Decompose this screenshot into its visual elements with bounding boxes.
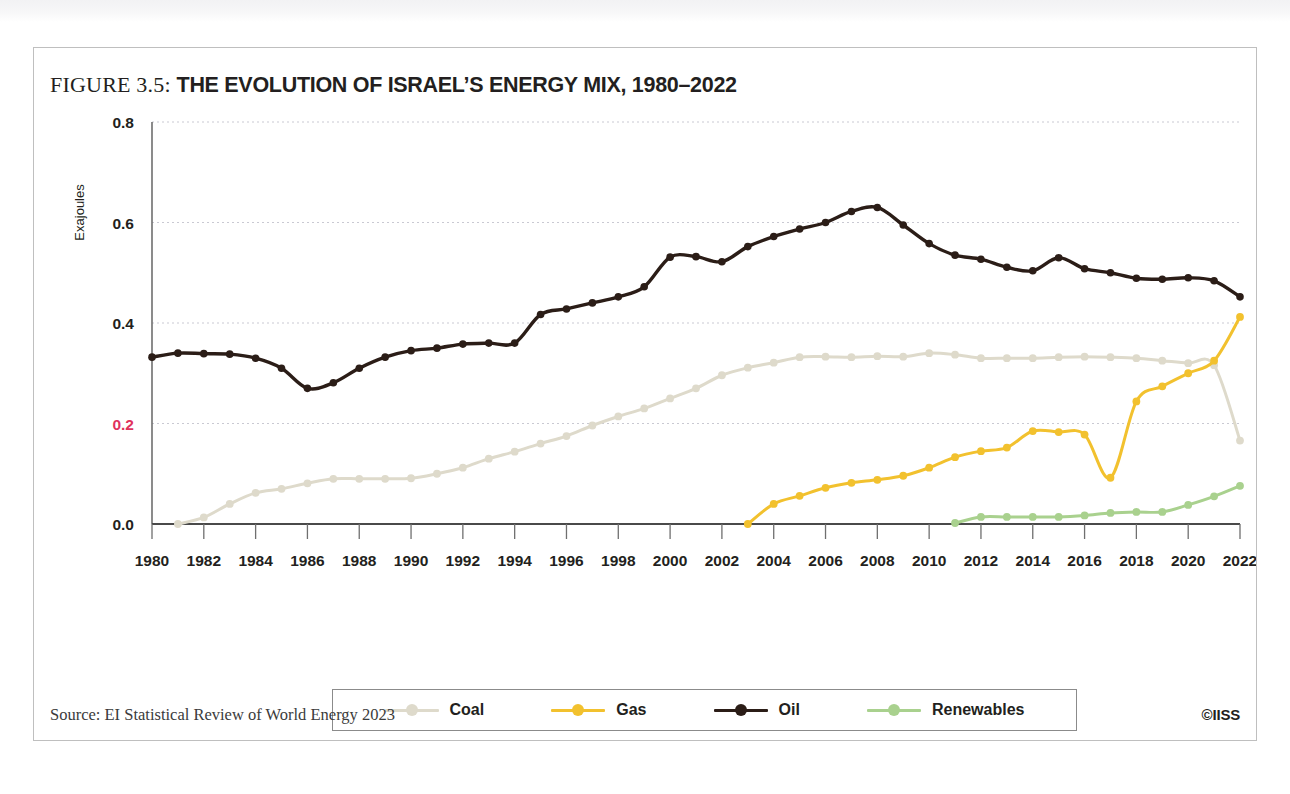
x-tick-label: 2016	[1067, 552, 1102, 569]
figure-number: FIGURE 3.5:	[50, 72, 171, 97]
legend-label: Oil	[779, 701, 800, 719]
x-tick-label: 1980	[135, 552, 169, 569]
legend-item-coal[interactable]: Coal	[385, 701, 485, 719]
x-tick-label: 1996	[549, 552, 584, 569]
x-tick-label: 1992	[446, 552, 480, 569]
line-chart: 0.00.20.40.60.8 198019821984198619881990…	[34, 104, 1256, 674]
y-axis-ticks: 0.00.20.40.60.8	[112, 114, 134, 533]
legend-swatch-icon	[551, 703, 605, 717]
legend-item-renewables[interactable]: Renewables	[867, 701, 1024, 719]
x-tick-label: 1990	[394, 552, 428, 569]
data-series	[148, 204, 1244, 528]
x-tick-label: 2002	[705, 552, 739, 569]
figure-title-text: THE EVOLUTION OF ISRAEL’S ENERGY MIX, 19…	[177, 73, 737, 97]
x-tick-label: 2000	[653, 552, 687, 569]
series-oil	[148, 204, 1244, 393]
series-gas	[744, 313, 1244, 528]
chart-legend: CoalGasOilRenewables	[332, 689, 1077, 731]
x-tick-label: 1986	[290, 552, 325, 569]
y-tick-label: 0.0	[112, 516, 134, 533]
x-tick-label: 1998	[601, 552, 636, 569]
x-tick-label: 2018	[1119, 552, 1154, 569]
x-tick-label: 2010	[912, 552, 946, 569]
y-axis-title-text: Exajoules	[72, 184, 87, 241]
x-tick-label: 1984	[238, 552, 273, 569]
x-tick-label: 1982	[187, 552, 221, 569]
x-tick-label: 1994	[497, 552, 532, 569]
iiss-credit: ©IISS	[1202, 706, 1240, 723]
y-tick-label: 0.8	[112, 114, 134, 131]
y-axis-title: Exajoules	[72, 184, 87, 241]
y-tick-label: 0.2	[112, 416, 134, 433]
legend-label: Renewables	[932, 701, 1024, 719]
x-tick-label: 1988	[342, 552, 377, 569]
x-tick-label: 2006	[808, 552, 843, 569]
scan-top-band	[0, 0, 1290, 22]
x-tick-label: 2008	[860, 552, 895, 569]
x-tick-label: 2012	[964, 552, 998, 569]
source-note: Source: EI Statistical Review of World E…	[50, 705, 395, 725]
series-renewables	[951, 482, 1244, 527]
x-tick-label: 2022	[1223, 552, 1256, 569]
legend-item-gas[interactable]: Gas	[551, 701, 646, 719]
x-tick-label: 2004	[756, 552, 791, 569]
x-tick-label: 2020	[1171, 552, 1205, 569]
legend-item-oil[interactable]: Oil	[714, 701, 800, 719]
axis-lines	[152, 122, 1240, 524]
legend-label: Coal	[450, 701, 485, 719]
legend-swatch-icon	[867, 703, 921, 717]
x-tick-label: 2014	[1016, 552, 1051, 569]
series-coal	[174, 349, 1244, 528]
chart-area: 0.00.20.40.60.8 198019821984198619881990…	[34, 104, 1256, 674]
legend-swatch-icon	[714, 703, 768, 717]
y-tick-label: 0.6	[112, 215, 134, 232]
y-tick-label: 0.4	[112, 315, 134, 332]
gridlines	[152, 122, 1240, 424]
figure-card: FIGURE 3.5: THE EVOLUTION OF ISRAEL’S EN…	[33, 47, 1257, 741]
x-axis-ticks: 1980198219841986198819901992199419961998…	[135, 524, 1256, 569]
legend-label: Gas	[616, 701, 646, 719]
page-title: FIGURE 3.5: THE EVOLUTION OF ISRAEL’S EN…	[50, 72, 737, 98]
